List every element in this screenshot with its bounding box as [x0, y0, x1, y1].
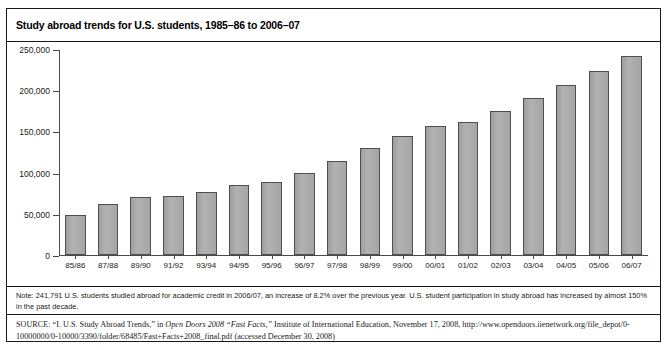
bar-slot — [157, 49, 190, 255]
bar-slot — [255, 49, 288, 255]
x-axis-tick — [501, 255, 502, 259]
x-axis-tick-label: 01/02 — [452, 261, 485, 270]
bar[interactable] — [130, 197, 151, 256]
x-axis-tick — [632, 255, 633, 259]
bar-slot — [550, 49, 583, 255]
x-axis-tick-label: 97/98 — [321, 261, 354, 270]
x-axis-tick — [370, 255, 371, 259]
bar-slot — [452, 49, 485, 255]
x-axis-tick — [435, 255, 436, 259]
x-axis-tick — [599, 255, 600, 259]
chart-note: Note: 241,791 U.S. students studied abro… — [16, 291, 652, 312]
x-axis-tick — [337, 255, 338, 259]
bar-slot — [288, 49, 321, 255]
x-axis-tick — [304, 255, 305, 259]
x-axis-line — [59, 255, 648, 256]
bar[interactable] — [589, 71, 610, 255]
x-axis-tick-label: 03/04 — [517, 261, 550, 270]
bar-slot — [583, 49, 616, 255]
source-text-1: “I. U.S. Study Abroad Trends,” in — [51, 320, 166, 329]
y-axis-tick — [53, 256, 59, 257]
bar-slot — [615, 49, 648, 255]
bar-slot — [223, 49, 256, 255]
x-axis-tick-label: 05/06 — [583, 261, 616, 270]
x-axis-tick-label: 93/94 — [190, 261, 223, 270]
x-axis-tick — [239, 255, 240, 259]
x-axis-tick — [206, 255, 207, 259]
x-axis-labels: 85/8687/8889/9091/9293/9494/9595/9696/97… — [59, 261, 648, 270]
bar[interactable] — [621, 56, 642, 255]
x-axis-tick-label: 87/88 — [92, 261, 125, 270]
bar-series — [59, 49, 648, 255]
bar-slot — [321, 49, 354, 255]
x-axis-tick-label: 85/86 — [59, 261, 92, 270]
bar-slot — [124, 49, 157, 255]
x-axis-tick — [174, 255, 175, 259]
x-axis-tick-label: 00/01 — [419, 261, 452, 270]
bar[interactable] — [425, 126, 446, 255]
y-axis-tick-label: 250,000 — [19, 45, 50, 55]
bar[interactable] — [360, 148, 381, 255]
bar[interactable] — [392, 136, 413, 255]
x-axis-tick — [403, 255, 404, 259]
bar-slot — [484, 49, 517, 255]
bar[interactable] — [327, 161, 348, 255]
bar-slot — [386, 49, 419, 255]
bar[interactable] — [556, 85, 577, 255]
y-axis-tick-label: 100,000 — [19, 169, 50, 179]
source-title-italic: Open Doors 2008 “Fast Facts,” — [165, 320, 272, 329]
bar-slot — [92, 49, 125, 255]
x-axis-tick — [75, 255, 76, 259]
bar[interactable] — [294, 173, 315, 255]
bar-slot — [517, 49, 550, 255]
note-divider-top — [7, 286, 660, 287]
bar-slot — [190, 49, 223, 255]
bar-slot — [419, 49, 452, 255]
x-axis-tick-label: 91/92 — [157, 261, 190, 270]
y-axis-tick-label: 50,000 — [24, 210, 50, 220]
x-axis-tick — [566, 255, 567, 259]
x-axis-tick-label: 02/03 — [484, 261, 517, 270]
bar[interactable] — [490, 111, 511, 255]
bar-slot — [59, 49, 92, 255]
x-axis-tick-label: 06/07 — [615, 261, 648, 270]
bar[interactable] — [65, 215, 86, 255]
y-axis-tick-label: 150,000 — [19, 127, 50, 137]
note-divider-bottom — [7, 314, 660, 315]
x-axis-tick — [468, 255, 469, 259]
x-axis-tick-label: 94/95 — [223, 261, 256, 270]
bar[interactable] — [196, 192, 217, 255]
y-axis-tick-label: 0 — [45, 251, 50, 261]
bar[interactable] — [523, 98, 544, 255]
bar[interactable] — [458, 122, 479, 255]
chart-plot-area: 250,000200,000150,000100,00050,0000 85/8… — [7, 42, 660, 286]
x-axis-tick-label: 04/05 — [550, 261, 583, 270]
x-axis-tick-label: 98/99 — [353, 261, 386, 270]
x-axis-tick-label: 99/00 — [386, 261, 419, 270]
x-axis-tick — [533, 255, 534, 259]
bar[interactable] — [98, 204, 119, 255]
x-axis-tick — [108, 255, 109, 259]
bar[interactable] — [163, 196, 184, 255]
x-axis-tick-label: 89/90 — [124, 261, 157, 270]
source-keyword: SOURCE: — [16, 320, 51, 329]
y-axis-tick-label: 200,000 — [19, 86, 50, 96]
page-title: Study abroad trends for U.S. students, 1… — [16, 19, 300, 31]
x-axis-tick-label: 96/97 — [288, 261, 321, 270]
figure-panel: Study abroad trends for U.S. students, 1… — [6, 8, 661, 342]
x-axis-tick-label: 95/96 — [255, 261, 288, 270]
bar-slot — [353, 49, 386, 255]
bar[interactable] — [261, 182, 282, 255]
x-axis-tick — [141, 255, 142, 259]
bar[interactable] — [229, 185, 250, 255]
chart-source: SOURCE: “I. U.S. Study Abroad Trends,” i… — [16, 319, 656, 342]
x-axis-tick — [272, 255, 273, 259]
axes: 250,000200,000150,000100,00050,0000 — [59, 50, 648, 256]
